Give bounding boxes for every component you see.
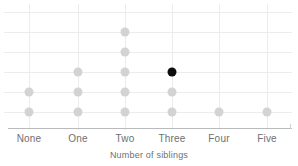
- data-dot: [25, 108, 34, 117]
- data-dot: [25, 88, 34, 97]
- x-axis-end-cap: [290, 124, 291, 129]
- gridline-horizontal: [4, 72, 292, 73]
- gridline-horizontal: [4, 112, 292, 113]
- x-tick-label-five: Five: [257, 133, 277, 144]
- x-tick-label-one: One: [68, 133, 88, 144]
- data-dot: [74, 108, 83, 117]
- gridline-horizontal: [4, 52, 292, 53]
- gridline-horizontal: [4, 32, 292, 33]
- data-dot: [263, 108, 272, 117]
- data-dot: [74, 88, 83, 97]
- data-dot: [168, 88, 177, 97]
- x-axis-title: Number of siblings: [0, 150, 298, 160]
- x-tick-label-three: Three: [158, 133, 185, 144]
- x-tick-label-none: None: [17, 133, 42, 144]
- data-dot: [215, 108, 224, 117]
- data-dot: [121, 48, 130, 57]
- data-dot: [74, 68, 83, 77]
- gridline-horizontal: [4, 92, 292, 93]
- x-tick-label-two: Two: [116, 133, 135, 144]
- data-dot: [121, 68, 130, 77]
- x-axis-line: [8, 128, 292, 129]
- data-dot-highlighted: [168, 68, 177, 77]
- data-dot: [121, 108, 130, 117]
- gridline-horizontal: [4, 12, 292, 13]
- data-dot: [121, 88, 130, 97]
- dot-plot-chart: None One Two Three Four Five Number of s…: [0, 0, 298, 166]
- data-dot: [168, 108, 177, 117]
- data-dot: [121, 28, 130, 37]
- x-tick-label-four: Four: [208, 133, 229, 144]
